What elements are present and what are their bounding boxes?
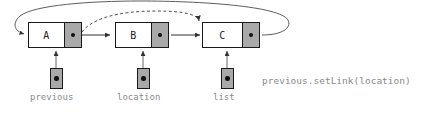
pointer-dot-icon [54,76,59,81]
node-link-cell-a [64,23,81,47]
pointer-box-list [221,68,234,89]
list-node-b: B [115,22,169,48]
pointer-label-list: list [213,92,235,102]
link-dot-icon [158,33,163,38]
node-value-a: A [29,23,64,47]
pointer-dot-icon [141,76,146,81]
list-node-a: A [28,22,82,48]
code-annotation-text: previous.setLink(location) [262,75,411,86]
list-node-c: C [202,22,260,48]
pointer-box-previous [50,68,63,89]
linked-list-diagram: A B C previous location list previous.se… [0,0,421,115]
pointer-dot-icon [225,76,230,81]
node-link-cell-c [242,23,259,47]
pointer-box-location [137,68,150,89]
node-value-c: C [203,23,242,47]
node-link-cell-b [151,23,168,47]
link-dot-icon [71,33,76,38]
node-value-b: B [116,23,151,47]
pointer-label-location: location [117,92,160,102]
pointer-label-previous: previous [30,92,73,102]
link-dot-icon [249,33,254,38]
